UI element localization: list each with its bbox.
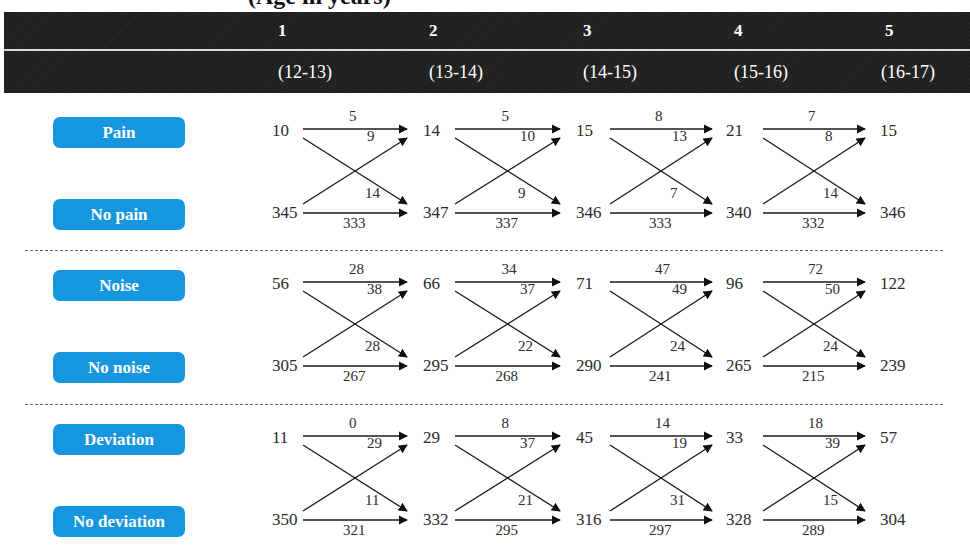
flow-arrows xyxy=(0,0,970,552)
